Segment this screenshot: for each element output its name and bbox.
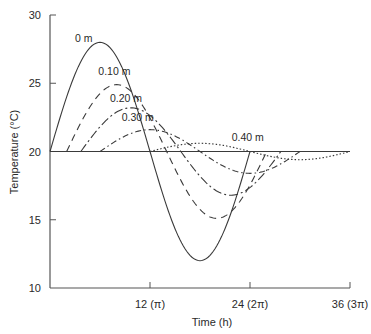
- series-label: 0.20 m: [110, 92, 142, 104]
- y-tick-label: 20: [29, 146, 41, 158]
- series-label: 0.40 m: [232, 131, 264, 143]
- series-label: 0 m: [75, 32, 93, 44]
- x-tick-label: 36 (3π): [332, 298, 368, 310]
- series-labels: 0 m0.10 m0.20 m0.30 m0.40 m: [75, 32, 264, 142]
- temperature-chart: 1015202530 12 (π)24 (2π)36 (3π) 0 m0.10 …: [0, 0, 371, 334]
- axes: 1015202530 12 (π)24 (2π)36 (3π): [29, 9, 368, 310]
- x-axis-title: Time (h): [192, 316, 233, 328]
- y-tick-label: 30: [29, 9, 41, 21]
- series-label: 0.30 m: [122, 111, 154, 123]
- x-ticks: 12 (π)24 (2π)36 (3π): [135, 282, 368, 310]
- y-tick-label: 15: [29, 214, 41, 226]
- y-tick-label: 25: [29, 77, 41, 89]
- x-tick-label: 12 (π): [135, 298, 165, 310]
- x-tick-label: 24 (2π): [232, 298, 268, 310]
- y-tick-label: 10: [29, 282, 41, 294]
- series-label: 0.10 m: [98, 65, 130, 77]
- y-axis-title: Temperature (°C): [8, 110, 20, 194]
